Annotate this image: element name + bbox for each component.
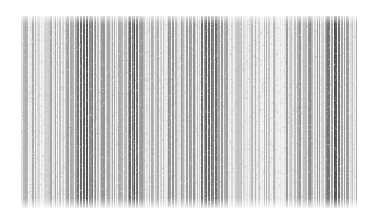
stripe-texture-image xyxy=(21,16,357,208)
